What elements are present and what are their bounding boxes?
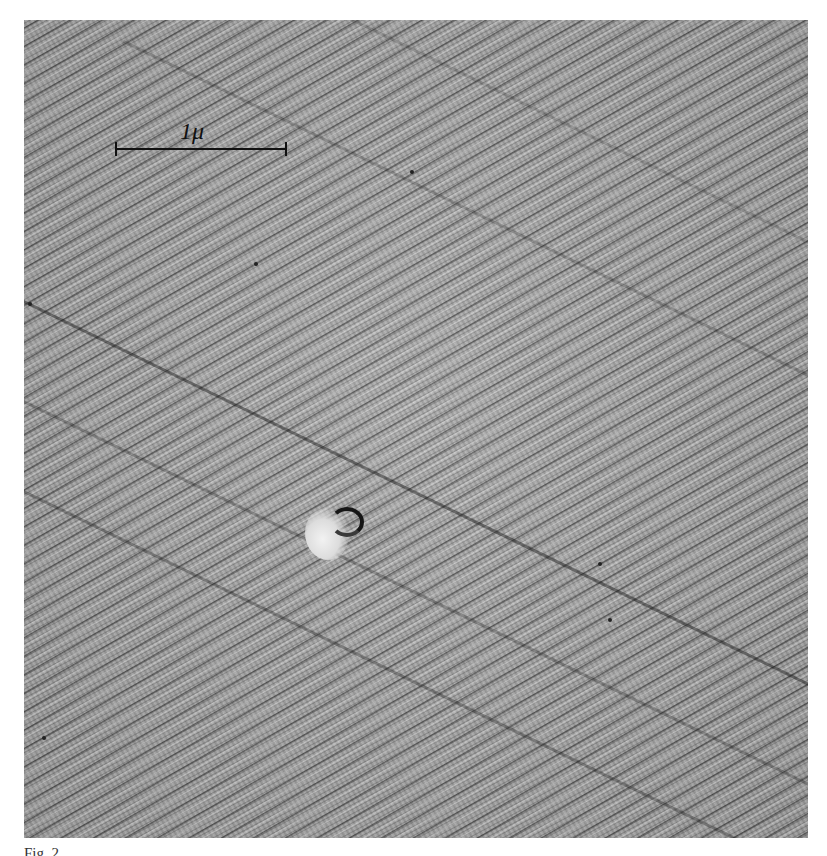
scale-bar [115,148,287,150]
speck [598,562,602,566]
speck [42,736,46,740]
speck [254,262,258,266]
figure-caption: Fig. 2. ... [24,840,78,856]
particle-shadow-edge [330,507,364,537]
speck [608,618,612,622]
speck [410,170,414,174]
scale-bar-label: 1μ [180,118,204,145]
speck [28,302,32,306]
micrograph-image [24,20,808,838]
image-shading [24,20,808,838]
